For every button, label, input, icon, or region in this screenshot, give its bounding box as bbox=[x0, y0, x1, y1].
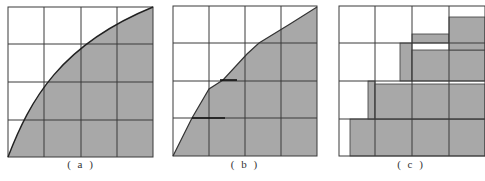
panel-b-label: ( b ) bbox=[215, 158, 275, 170]
panel-b bbox=[173, 6, 317, 156]
figure-canvas bbox=[0, 0, 485, 181]
panel-a-label: ( a ) bbox=[51, 158, 111, 170]
panel-c-label: ( c ) bbox=[381, 158, 441, 170]
panel-c-shaded-rectangles bbox=[350, 17, 485, 156]
panel-a bbox=[8, 7, 153, 157]
panel-c bbox=[339, 6, 485, 156]
